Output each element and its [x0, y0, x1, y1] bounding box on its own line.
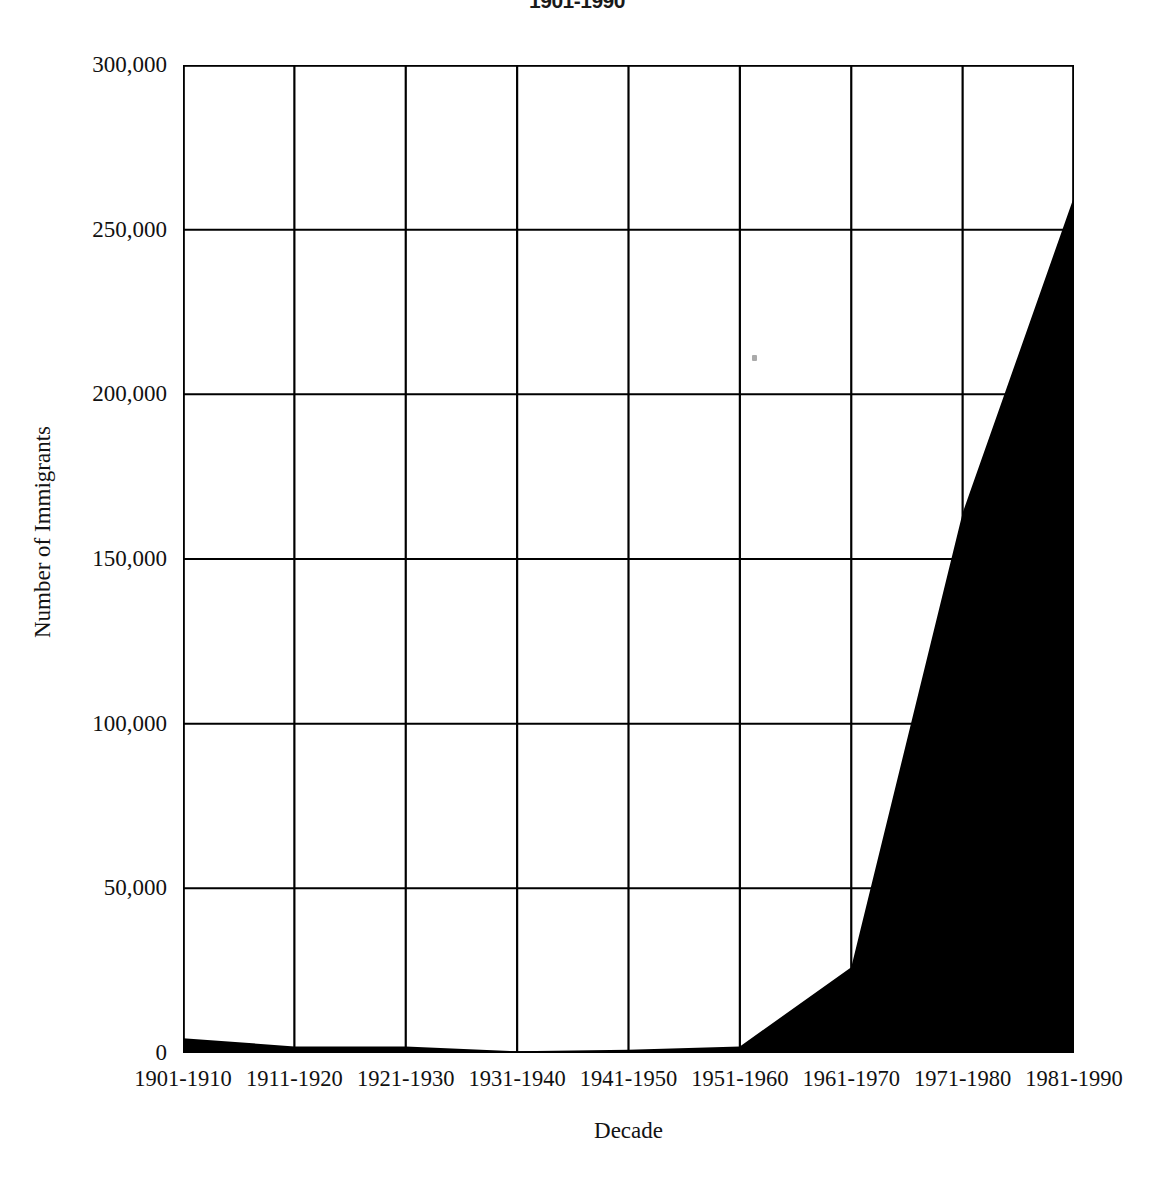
- y-tick-label: 300,000: [19, 52, 167, 78]
- y-tick-label: 200,000: [19, 381, 167, 407]
- scan-artifact-speck: [752, 355, 757, 361]
- x-axis-title: Decade: [183, 1118, 1074, 1144]
- plot-svg: [183, 65, 1074, 1053]
- y-tick-label: 0: [19, 1040, 167, 1066]
- chart-title: 1901-1990: [0, 0, 1154, 13]
- immigration-area-chart: 1901-1990 Number of Immigrants 050,00010…: [0, 0, 1154, 1181]
- y-axis-tick-labels: 050,000100,000150,000200,000250,000300,0…: [0, 65, 167, 1053]
- y-tick-label: 150,000: [19, 546, 167, 572]
- y-tick-label: 250,000: [19, 217, 167, 243]
- y-tick-label: 100,000: [19, 711, 167, 737]
- plot-area: [183, 65, 1074, 1053]
- y-tick-label: 50,000: [19, 875, 167, 901]
- x-tick-label: 1981-1990: [994, 1066, 1154, 1092]
- x-axis-tick-labels: 1901-19101911-19201921-19301931-19401941…: [183, 1066, 1074, 1100]
